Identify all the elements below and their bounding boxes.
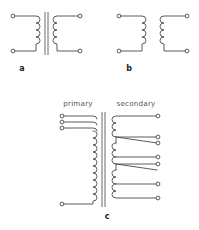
panel-a-primary-wire (14, 16, 40, 51)
panel-b-secondary-terminal-bottom (185, 49, 189, 53)
panel-b-secondary-wire (160, 16, 186, 51)
panel-a-primary-terminal-bottom (11, 49, 15, 53)
panel-c-primary-tap-1-lead (63, 116, 97, 119)
panel-c: primary secondary (60, 99, 160, 221)
panel-b-secondary-terminal-top (185, 14, 189, 18)
panel-a-secondary-wire (53, 16, 79, 51)
panel-b-primary-wire (120, 16, 146, 51)
panel-a: a (11, 12, 82, 73)
panel-b-secondary-winding (160, 14, 189, 53)
panel-c-secondary-tap-6-terminal (156, 182, 160, 186)
panel-a-primary-terminal-top (11, 14, 15, 18)
panel-a-secondary-winding (53, 14, 82, 53)
panel-c-secondary-wire (112, 116, 157, 198)
transformer-symbols-diagram: a b primary secondary (0, 0, 199, 230)
panel-c-primary-tap-2-terminal (60, 120, 64, 124)
panel-c-label: c (105, 212, 110, 221)
panel-c-primary-wire (63, 131, 97, 204)
panel-c-primary-terminal-bottom (60, 202, 64, 206)
panel-b-label: b (126, 64, 132, 73)
panel-b: b (117, 14, 189, 73)
panel-c-secondary-tap-3-terminal (156, 141, 160, 145)
panel-a-core (45, 12, 48, 55)
panel-c-secondary-tap-1-terminal (156, 114, 160, 118)
figure-canvas: a b primary secondary (0, 0, 199, 230)
panel-c-primary-heading: primary (63, 99, 93, 108)
panel-c-primary-tap-2-lead (63, 122, 97, 125)
panel-c-core (102, 112, 105, 207)
panel-c-primary-winding (60, 131, 97, 206)
panel-c-secondary-tap-4-terminal (156, 155, 160, 159)
panel-c-primary-tap-1-terminal (60, 114, 64, 118)
panel-b-primary-terminal-top (117, 14, 121, 18)
panel-c-secondary-tap-2-terminal (156, 135, 160, 139)
panel-c-primary-taps (60, 114, 97, 131)
panel-b-primary-winding (117, 14, 146, 53)
panel-a-label: a (19, 64, 24, 73)
panel-c-primary-tap-3-terminal (60, 126, 64, 130)
panel-a-primary-winding (11, 14, 40, 53)
panel-c-secondary-heading: secondary (116, 99, 156, 108)
panel-c-secondary-winding (112, 114, 160, 200)
panel-b-primary-terminal-bottom (117, 49, 121, 53)
panel-a-secondary-terminal-top (78, 14, 82, 18)
panel-c-secondary-tap-7-terminal (156, 196, 160, 200)
panel-a-secondary-terminal-bottom (78, 49, 82, 53)
panel-c-primary-tap-3-lead (63, 128, 97, 131)
panel-c-secondary-tap-5-terminal (156, 162, 160, 166)
